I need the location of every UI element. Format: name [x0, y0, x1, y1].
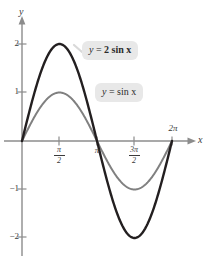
- fraction-denominator: 2: [123, 157, 145, 165]
- callout-label-2-sin-x: y = 2 sin x: [82, 41, 138, 60]
- x-tick-label-pi-over-2: π 2: [48, 146, 70, 166]
- y-axis-label: y: [19, 7, 23, 17]
- fraction-numerator: π: [48, 146, 70, 154]
- callout-equation-lhs: y: [102, 86, 106, 97]
- callout-leader-line: [74, 45, 82, 52]
- x-tick-label-2pi: 2π: [162, 124, 184, 133]
- x-axis-label: x: [198, 135, 202, 145]
- x-axis-arrow-icon: [188, 137, 197, 144]
- x-tick-label-pi: π: [91, 146, 103, 155]
- fraction-denominator: 2: [48, 157, 70, 165]
- y-tick-label-minus-1: −1: [1, 184, 19, 193]
- fraction-numerator: 3π: [123, 146, 145, 154]
- sine-graph-figure: y x 2 1 −1 −2 π 2 π 3π 2 2π y = 2 sin x …: [0, 0, 212, 259]
- callout-equation-operator: =: [96, 44, 102, 55]
- x-axis: [4, 137, 196, 144]
- callout-label-sin-x: y = sin x: [95, 83, 143, 102]
- y-tick-label-1: 1: [6, 87, 19, 96]
- y-tick-label-2: 2: [6, 39, 19, 48]
- x-tick-label-3pi-over-2: 3π 2: [123, 146, 145, 166]
- y-tick-label-minus-2: −2: [1, 232, 19, 241]
- callout-equation-lhs: y: [89, 44, 93, 55]
- callout-equation-operator: =: [109, 86, 115, 97]
- y-axis-arrow-icon: [19, 16, 26, 25]
- callout-equation-rhs: 2 sin x: [104, 44, 131, 55]
- callout-equation-rhs: sin x: [117, 86, 136, 97]
